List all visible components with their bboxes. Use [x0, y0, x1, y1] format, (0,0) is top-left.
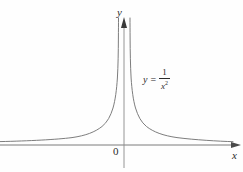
curve-left-branch — [0, 18, 119, 142]
fraction-denominator: x2 — [159, 79, 170, 91]
equation-annotation: y = 1 x2 — [143, 68, 170, 91]
denominator-exponent: 2 — [165, 80, 168, 86]
fraction-numerator: 1 — [160, 68, 169, 78]
equation-fraction: 1 x2 — [159, 68, 170, 91]
equation-lhs: y — [143, 75, 147, 85]
origin-label: 0 — [113, 146, 119, 157]
y-axis-label: y — [117, 7, 122, 18]
x-axis-label: x — [232, 150, 237, 161]
plot-canvas — [0, 0, 243, 172]
function-plot-figure: y x 0 y = 1 x2 — [0, 0, 243, 172]
x-axis-arrowhead — [231, 142, 241, 148]
equation-equals-sign: = — [149, 75, 157, 85]
y-axis-arrowhead — [121, 17, 127, 28]
